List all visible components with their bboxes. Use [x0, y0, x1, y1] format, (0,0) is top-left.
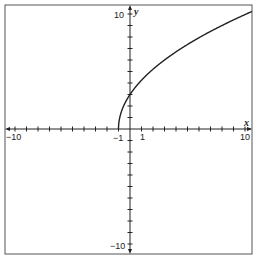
y-axis-label: y: [133, 6, 139, 17]
x-tick-label-neg10: −10: [6, 132, 21, 142]
y-tick-label-10: 10: [114, 10, 124, 20]
x-tick-label-neg1: −1: [113, 133, 123, 143]
y-tick-label-neg10: −10: [110, 241, 125, 251]
x-tick-label-1: 1: [140, 132, 145, 142]
x-axis-label: x: [243, 117, 249, 128]
function-graph: x y −10 −1 1 10 10 −10: [0, 0, 258, 264]
x-tick-label-10: 10: [240, 132, 250, 142]
